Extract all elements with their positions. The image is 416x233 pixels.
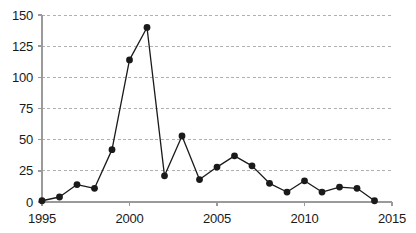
line-chart: 0255075100125150 19952000200520102015	[0, 0, 416, 233]
data-point-2001	[144, 24, 151, 31]
y-tick-label-25: 25	[0, 164, 33, 177]
data-point-1995	[39, 197, 46, 204]
x-tick-label-2000: 2000	[100, 212, 160, 225]
data-point-2004	[196, 176, 203, 183]
y-tick-label-75: 75	[0, 102, 33, 115]
data-point-markers	[39, 24, 378, 204]
y-tick-label-50: 50	[0, 133, 33, 146]
data-point-1997	[74, 181, 81, 188]
data-point-2013	[354, 185, 361, 192]
y-tick-label-150: 150	[0, 9, 33, 22]
series-line-series-1	[42, 27, 375, 200]
data-point-2012	[336, 184, 343, 191]
data-point-2009	[284, 189, 291, 196]
data-point-1998	[91, 185, 98, 192]
chart-canvas	[0, 0, 416, 233]
gridlines	[42, 15, 392, 171]
data-point-2003	[179, 133, 186, 140]
x-tick-label-2005: 2005	[187, 212, 247, 225]
data-point-2014	[371, 197, 378, 204]
y-tick-label-125: 125	[0, 40, 33, 53]
data-point-2005	[214, 164, 221, 171]
x-tick-label-2015: 2015	[362, 212, 416, 225]
data-point-2008	[266, 180, 273, 187]
data-point-1996	[56, 194, 63, 201]
data-point-2011	[319, 189, 326, 196]
data-point-2002	[161, 172, 168, 179]
data-point-2007	[249, 162, 256, 169]
data-point-2010	[301, 177, 308, 184]
data-point-2006	[231, 152, 238, 159]
data-point-2000	[126, 56, 133, 63]
x-tick-label-1995: 1995	[12, 212, 72, 225]
y-tick-label-0: 0	[0, 196, 33, 209]
data-series-line	[42, 27, 375, 200]
x-tick-label-2010: 2010	[275, 212, 335, 225]
data-point-1999	[109, 146, 116, 153]
y-tick-label-100: 100	[0, 71, 33, 84]
